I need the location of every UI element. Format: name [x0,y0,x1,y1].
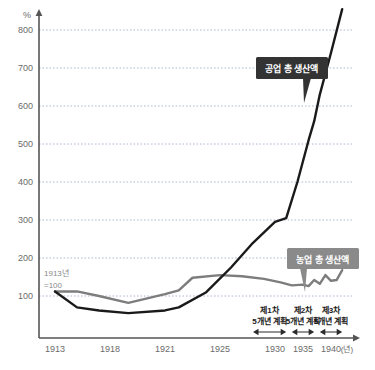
agricultural-callout-pointer [300,268,307,292]
plan-bracket: 제3차5개년 계획 [314,305,349,335]
x-axis-tick-label: 1913 [45,344,65,354]
industrial-callout-label: 공업 총 생산액 [265,63,318,74]
y-axis-tick-label: 200 [18,253,33,263]
x-axis-tick-label: 1940 [321,344,341,354]
y-axis-tick-labels: 100200300400500600700800 [18,25,33,301]
plan-bracket-label-line2: 5개년 계획 [314,316,349,326]
plan-bracket-arrowhead [309,329,315,335]
plan-bracket-arrowhead [253,329,259,335]
y-axis-tick-label: 500 [18,139,33,149]
five-year-plan-brackets: 제1차5개년 계획제2차5개년 계획제3차5개년 계획 [252,305,348,335]
x-axis-tick-label: 1935 [293,344,313,354]
line-chart: % 100200300400500600700800 1913191819211… [0,0,375,370]
plan-bracket-label-line2: 5개년 계획 [252,316,287,326]
industrial-callout-pointer [303,78,311,103]
y-axis-tick-label: 300 [18,215,33,225]
plan-bracket-arrowhead [337,329,343,335]
base-note-line2: =100 [44,281,63,290]
plan-bracket-label-line1: 제2차 [294,305,313,315]
y-axis-tick-label: 100 [18,291,33,301]
x-axis-arrow [353,335,360,342]
x-axis-tick-label: 1925 [210,344,230,354]
x-axis-tick-label: 1930 [265,344,285,354]
y-axis-tick-label: 400 [18,177,33,187]
x-axis-unit-label: (년) [341,344,354,354]
base-note-line1: 1913년 [44,268,69,278]
y-axis-tick-label: 600 [18,101,33,111]
x-axis-tick-label: 1921 [155,344,175,354]
plan-bracket-arrowhead [281,329,287,335]
y-axis-unit-label: % [23,10,31,20]
y-axis-arrow [36,9,43,16]
plan-bracket-label-line1: 제3차 [322,305,341,315]
plan-bracket-arrowhead [320,329,326,335]
plan-bracket-arrowhead [292,329,298,335]
chart-container: % 100200300400500600700800 1913191819211… [0,0,375,370]
plan-bracket: 제1차5개년 계획 [252,305,287,335]
x-axis-tick-label: 1918 [100,344,120,354]
y-axis-tick-label: 800 [18,25,33,35]
industrial-callout: 공업 총 생산액 [256,57,328,103]
y-axis-tick-label: 700 [18,63,33,73]
x-axis-tick-labels: 1913191819211925193019351940 [45,344,341,354]
agricultural-callout-label: 농업 총 생산액 [296,254,349,265]
series-line-agricultural [55,270,342,303]
plan-bracket-label-line1: 제1차 [260,305,279,315]
